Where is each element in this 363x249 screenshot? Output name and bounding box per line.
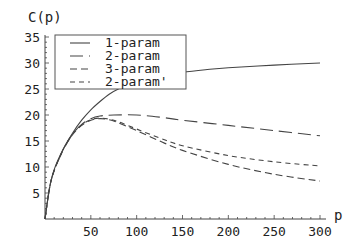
series-line-3 (45, 119, 320, 219)
x-tick-label: 100 (125, 224, 148, 239)
y-tick-label: 30 (24, 56, 40, 71)
series-line-2 (45, 115, 320, 219)
line-chart: 501001502002503005101520253035 C(p) p 1-… (0, 0, 363, 249)
y-tick-label: 10 (24, 160, 40, 175)
y-tick-label: 15 (24, 134, 40, 149)
y-tick-label: 20 (24, 108, 40, 123)
legend: 1-param2-param3-param2-param' (55, 35, 186, 89)
x-tick-label: 200 (217, 224, 240, 239)
y-tick-label: 5 (32, 186, 40, 201)
y-axis-label: C(p) (28, 9, 62, 25)
x-axis-label: p (334, 207, 342, 223)
x-tick-label: 250 (262, 224, 285, 239)
series-line-4 (45, 118, 320, 219)
y-tick-label: 25 (24, 82, 40, 97)
legend-label: 2-param' (105, 74, 168, 89)
y-tick-label: 35 (24, 30, 40, 45)
x-tick-label: 50 (83, 224, 99, 239)
x-tick-label: 300 (308, 224, 331, 239)
x-tick-label: 150 (171, 224, 194, 239)
